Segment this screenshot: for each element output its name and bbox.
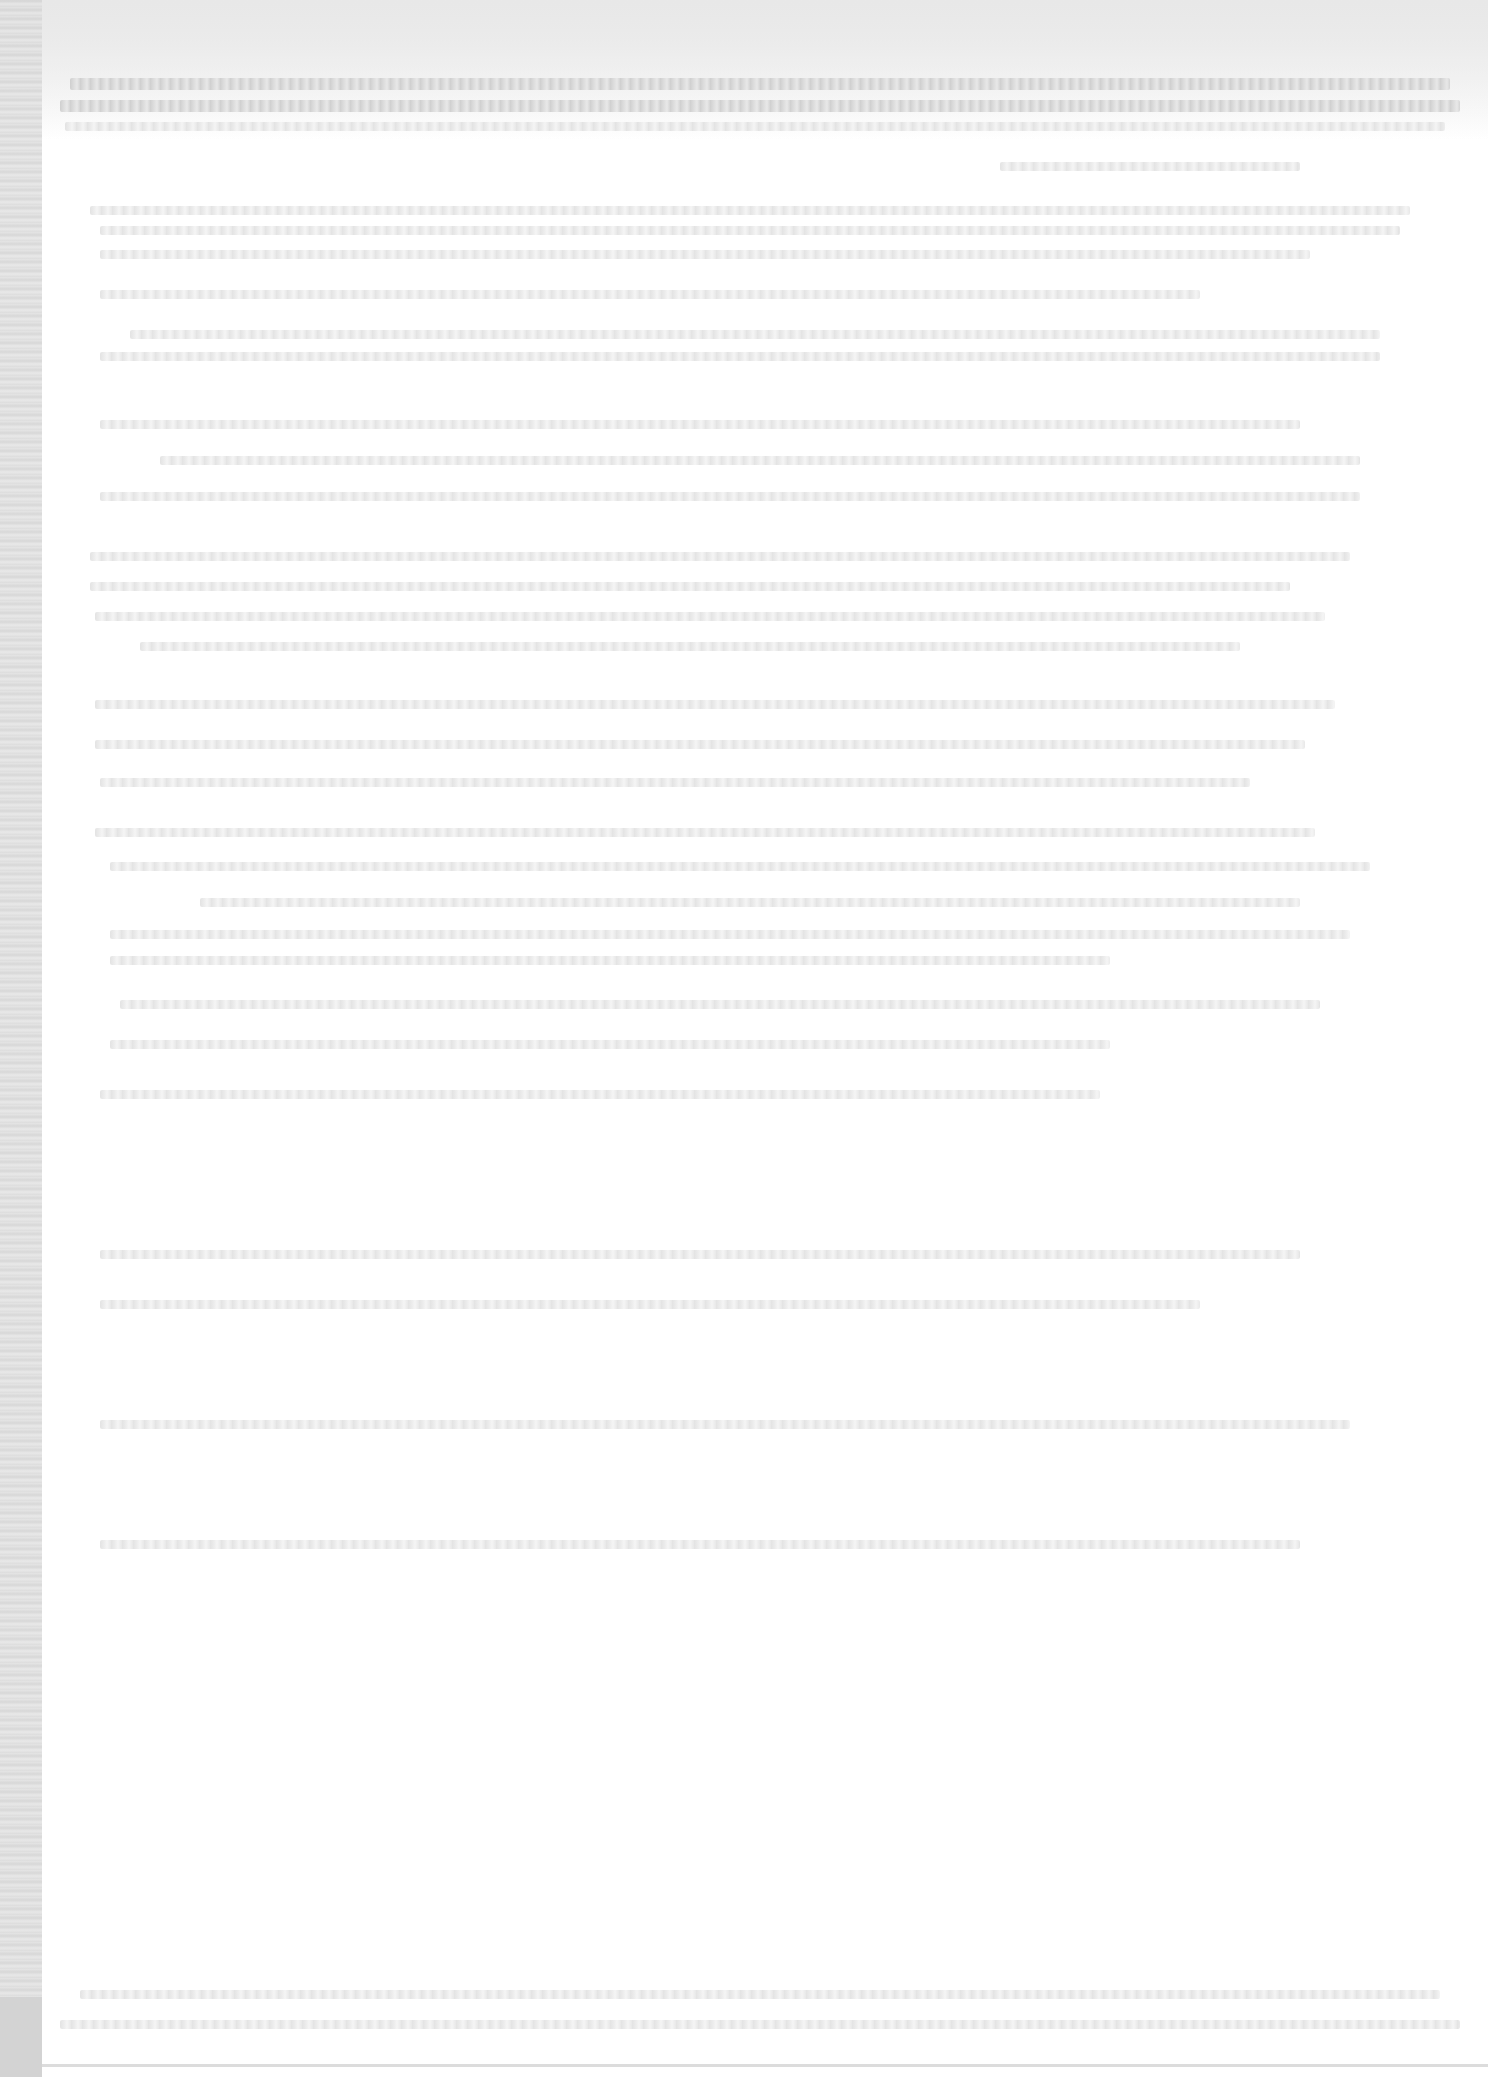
text-line bbox=[140, 642, 1240, 651]
text-line bbox=[110, 930, 1350, 939]
text-line bbox=[1000, 162, 1300, 171]
text-line bbox=[160, 456, 1360, 465]
text-line bbox=[90, 582, 1290, 591]
text-line bbox=[100, 1420, 1350, 1429]
text-line bbox=[95, 828, 1315, 837]
scan-top-shadow bbox=[42, 0, 1488, 140]
text-line bbox=[100, 1090, 1100, 1099]
text-line bbox=[95, 700, 1335, 709]
text-line bbox=[65, 122, 1445, 131]
text-line bbox=[110, 862, 1370, 871]
text-line bbox=[100, 290, 1200, 299]
text-line bbox=[100, 1300, 1200, 1309]
text-line bbox=[100, 1250, 1300, 1259]
text-line bbox=[60, 100, 1460, 112]
text-line bbox=[95, 612, 1325, 621]
text-line bbox=[130, 330, 1380, 339]
text-line bbox=[110, 956, 1110, 965]
text-line bbox=[100, 226, 1400, 235]
text-line bbox=[100, 250, 1310, 259]
text-line bbox=[70, 78, 1450, 90]
text-line bbox=[100, 1540, 1300, 1549]
text-line bbox=[110, 1040, 1110, 1049]
text-line bbox=[200, 898, 1300, 907]
text-line bbox=[120, 1000, 1320, 1009]
text-line bbox=[80, 1990, 1440, 1999]
text-line bbox=[95, 740, 1305, 749]
text-line bbox=[100, 352, 1380, 361]
text-line bbox=[100, 778, 1250, 787]
text-line bbox=[90, 206, 1410, 215]
text-line bbox=[60, 2020, 1460, 2029]
scan-bottom-edge bbox=[42, 2064, 1488, 2067]
scanned-page bbox=[0, 0, 1488, 2077]
scan-binding-edge bbox=[0, 0, 42, 2077]
text-line bbox=[90, 552, 1350, 561]
text-line bbox=[100, 492, 1360, 501]
text-line bbox=[100, 420, 1300, 429]
